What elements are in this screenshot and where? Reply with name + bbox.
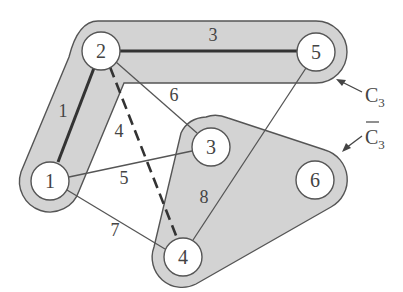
edge-weight-2-3: 6 bbox=[170, 85, 179, 105]
edge-weight-1-3: 5 bbox=[120, 168, 129, 188]
arrow-icon bbox=[336, 79, 362, 92]
node-6: 6 bbox=[296, 161, 334, 199]
edge-weight-2-4: 4 bbox=[115, 121, 124, 141]
node-4: 4 bbox=[164, 238, 202, 276]
region-label-c3-bar: C3 bbox=[365, 122, 385, 152]
node-label: 3 bbox=[206, 136, 216, 158]
node-label: 4 bbox=[178, 246, 188, 268]
node-label: 5 bbox=[311, 41, 321, 63]
edge-weight-5-4: 8 bbox=[200, 187, 209, 207]
edge-2-4 bbox=[110, 67, 177, 238]
graph-cut-diagram: 1 3 4 5 6 7 8 1 2 3 4 5 6 C3 bbox=[0, 0, 403, 292]
edge-weight-2-1: 1 bbox=[59, 101, 68, 121]
node-3: 3 bbox=[192, 128, 230, 166]
node-label: 6 bbox=[310, 169, 320, 191]
edge-weight-1-4: 7 bbox=[111, 220, 120, 240]
svg-text:C3: C3 bbox=[365, 126, 385, 152]
node-label: 1 bbox=[45, 170, 55, 192]
edge-weight-2-5: 3 bbox=[209, 25, 218, 45]
node-label: 2 bbox=[96, 40, 106, 62]
node-1: 1 bbox=[31, 162, 69, 200]
node-5: 5 bbox=[297, 33, 335, 71]
arrow-icon bbox=[342, 136, 362, 152]
region-label-c3: C3 bbox=[365, 84, 385, 110]
node-2: 2 bbox=[82, 32, 120, 70]
